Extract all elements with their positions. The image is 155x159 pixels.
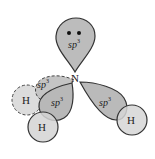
hydrogen-left-label: H xyxy=(22,94,30,106)
hydrogen-bottom: H xyxy=(28,112,58,142)
hydrogen-right: H xyxy=(117,105,147,135)
hydrogen-right-label: H xyxy=(127,114,135,126)
lone-pair-electron-icon xyxy=(77,31,81,35)
hydrogen-bottom-label: H xyxy=(38,121,46,133)
nitrogen-label: N xyxy=(71,72,79,84)
ammonia-orbital-diagram: H sp3 sp3 H sp3 H sp3 N xyxy=(0,0,155,159)
orbital-lone-pair: sp3 xyxy=(56,18,95,72)
lone-pair-electron-icon xyxy=(67,31,71,35)
